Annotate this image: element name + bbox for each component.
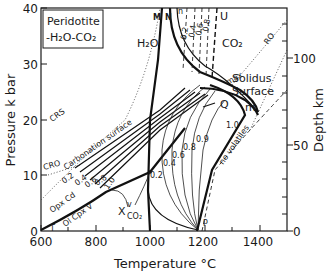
depth-tick-50: 50 bbox=[293, 139, 308, 153]
x-tick-1400: 1400 bbox=[243, 235, 274, 249]
x-tick-1200: 1200 bbox=[188, 235, 219, 249]
U-line bbox=[212, 8, 217, 78]
xco2-label: X bbox=[118, 205, 126, 218]
depth-tick-0: 0 bbox=[293, 225, 301, 239]
y-tick-0: 0 bbox=[30, 225, 38, 239]
x-tick-1000: 1000 bbox=[135, 235, 166, 249]
P-label: P bbox=[203, 219, 208, 228]
N-label: N bbox=[165, 13, 172, 22]
solidus-label-1: Solidus bbox=[232, 72, 272, 85]
depth-tick-100: 100 bbox=[293, 52, 316, 66]
y-tick-30: 30 bbox=[23, 58, 38, 72]
Q-arrow bbox=[203, 103, 215, 107]
crs-label: CRS bbox=[48, 107, 66, 124]
upper-iso-08: 0.8 bbox=[201, 18, 212, 32]
sol-iso-08: 0.8 bbox=[183, 143, 196, 152]
y-axis-depth: 0 50 100 Depth km bbox=[282, 24, 326, 239]
sol-iso-06: 0.6 bbox=[172, 151, 185, 160]
y2-axis-label: Depth km bbox=[311, 88, 326, 152]
phase-diagram: 600 800 1000 1200 1400 Temperature °C 40… bbox=[0, 0, 331, 276]
y-axis-label: Pressure k bar bbox=[3, 73, 18, 167]
T-label: T bbox=[49, 224, 55, 233]
upper-isopleths bbox=[183, 8, 217, 78]
U-label: U bbox=[220, 10, 228, 23]
title-line2: -H₂O-CO₂ bbox=[46, 31, 96, 44]
y-tick-40: 40 bbox=[23, 2, 38, 16]
sol-iso-09: 0.9 bbox=[196, 135, 209, 144]
title-box: Peridotite -H₂O-CO₂ bbox=[43, 10, 103, 48]
x-tick-800: 800 bbox=[85, 235, 108, 249]
sol-iso-10: 1.0 bbox=[226, 121, 239, 130]
opx-cd-label: Opx Cd bbox=[48, 190, 77, 214]
xco2-sup: v bbox=[127, 200, 132, 209]
h2o-label: H₂O bbox=[137, 37, 159, 50]
title-line1: Peridotite bbox=[47, 15, 100, 28]
x-axis: 600 800 1000 1200 1400 Temperature °C bbox=[30, 225, 274, 271]
xco2-sub: CO₂ bbox=[127, 212, 142, 221]
y-tick-10: 10 bbox=[23, 169, 38, 183]
x-axis-label: Temperature °C bbox=[113, 256, 216, 271]
Q-label: Q bbox=[220, 98, 229, 111]
sol-iso-04: 0.4 bbox=[163, 159, 176, 168]
M-label: M bbox=[153, 13, 161, 22]
solidus-label-2: Surface bbox=[232, 85, 274, 98]
y-tick-20: 20 bbox=[23, 114, 38, 128]
sol-iso-02: 0.2 bbox=[150, 171, 163, 180]
carbonation-label: Carbonation surface bbox=[62, 118, 134, 172]
cro-label: CRO bbox=[42, 159, 61, 172]
carb-iso-02: 0.2 bbox=[60, 171, 76, 186]
co2-label: CO₂ bbox=[222, 37, 243, 50]
m-label: m bbox=[245, 101, 256, 114]
n-label: n bbox=[178, 7, 183, 16]
ro-label: RO bbox=[262, 31, 276, 46]
